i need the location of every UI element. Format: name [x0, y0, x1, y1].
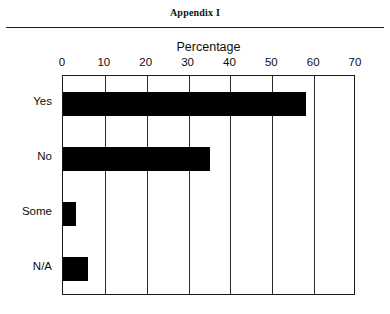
x-tick-label: 40: [209, 56, 249, 68]
bars-layer: [63, 76, 354, 294]
plot-area: [62, 75, 355, 295]
x-tick-label: 30: [168, 56, 208, 68]
x-tick-label: 70: [335, 56, 375, 68]
x-tick-label: 10: [84, 56, 124, 68]
x-tick-label: 50: [251, 56, 291, 68]
y-axis-category-labels: YesNoSomeN/A: [0, 75, 56, 295]
x-tick-label: 20: [126, 56, 166, 68]
bar: [63, 202, 76, 226]
bar: [63, 147, 210, 171]
bar: [63, 92, 306, 116]
y-category-label: No: [0, 150, 52, 162]
x-axis-tick-labels: 010203040506070: [0, 56, 390, 72]
bar: [63, 257, 88, 281]
page-title: Appendix I: [0, 7, 390, 18]
y-category-label: Some: [0, 205, 52, 217]
x-tick-label: 0: [42, 56, 82, 68]
chart-title: Percentage: [62, 40, 355, 54]
page-header: Appendix I: [0, 0, 390, 30]
y-category-label: N/A: [0, 260, 52, 272]
header-divider: [6, 27, 384, 28]
bar-chart: Percentage 010203040506070 YesNoSomeN/A: [0, 30, 390, 314]
x-tick-label: 60: [293, 56, 333, 68]
y-category-label: Yes: [0, 95, 52, 107]
